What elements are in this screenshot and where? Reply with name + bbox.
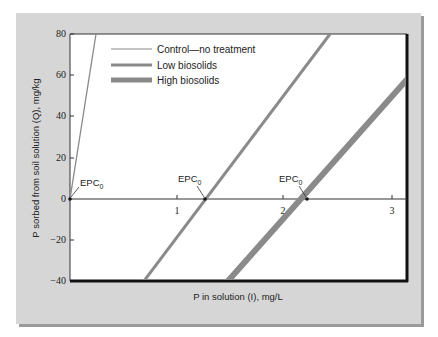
x-axis-title: P in solution (I), mg/L [193,291,283,302]
y-tick-60: 60 [56,69,66,80]
epc0-control-point [68,197,72,201]
y-tick-40: 40 [56,110,66,121]
y-axis-title: P sorbed from soil solution (Q), mg/kg [30,78,41,237]
epc0-high-point [305,197,309,201]
y-tick-20: 20 [56,152,66,163]
y-tick-80: 80 [56,28,66,39]
legend-label-control: Control—no treatment [157,44,256,55]
legend-label-low: Low biosolids [157,60,217,71]
x-tick-3: 3 [390,205,395,216]
legend-label-high: High biosolids [157,75,219,86]
chart: 80 60 40 20 0 −20 −40 1 2 3 EPC0 EPC0 [0,0,438,337]
y-tick-neg20: −20 [50,234,66,245]
y-tick-0: 0 [61,193,66,204]
x-tick-1: 1 [175,205,180,216]
y-tick-labels: 80 60 40 20 0 −20 −40 [50,28,66,286]
epc0-low-point [203,197,207,201]
y-tick-neg40: −40 [50,275,66,286]
